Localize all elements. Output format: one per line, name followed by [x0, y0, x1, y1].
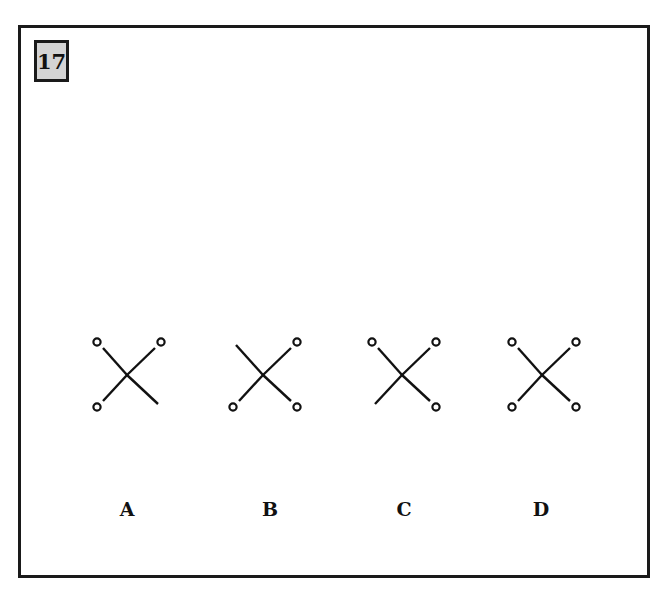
- arm-tl: [103, 348, 127, 375]
- x-cross-icon: [218, 330, 308, 420]
- question-number: 17: [37, 49, 66, 74]
- option-d-label[interactable]: D: [521, 498, 561, 520]
- question-frame: [18, 25, 650, 578]
- endpoint-circle-icon: [157, 338, 164, 345]
- endpoint-circle-icon: [508, 338, 515, 345]
- option-c-figure[interactable]: [357, 330, 447, 420]
- arm-br: [402, 375, 430, 401]
- arm-br: [542, 375, 570, 401]
- endpoint-circle-icon: [93, 338, 100, 345]
- x-cross-icon: [357, 330, 447, 420]
- arm-bl: [103, 375, 127, 401]
- endpoint-circle-icon: [368, 338, 375, 345]
- arm-bl: [239, 375, 263, 401]
- arm-tl: [518, 348, 542, 375]
- option-a-label[interactable]: A: [107, 498, 147, 520]
- option-b-figure[interactable]: [218, 330, 308, 420]
- arm-tr: [542, 348, 570, 375]
- endpoint-circle-icon: [432, 403, 439, 410]
- arm-tr: [127, 348, 155, 375]
- endpoint-circle-icon: [432, 338, 439, 345]
- endpoint-circle-icon: [508, 403, 515, 410]
- endpoint-circle-icon: [229, 403, 236, 410]
- option-c-label[interactable]: C: [384, 498, 424, 520]
- arm-br: [263, 375, 291, 401]
- option-b-label[interactable]: B: [250, 498, 290, 520]
- question-number-badge: 17: [34, 40, 69, 82]
- endpoint-circle-icon: [293, 338, 300, 345]
- endpoint-circle-icon: [293, 403, 300, 410]
- endpoint-circle-icon: [572, 338, 579, 345]
- x-cross-icon: [497, 330, 587, 420]
- option-a-figure[interactable]: [82, 330, 172, 420]
- endpoint-circle-icon: [93, 403, 100, 410]
- arm-tr: [402, 348, 430, 375]
- arm-bl: [518, 375, 542, 401]
- x-cross-icon: [82, 330, 172, 420]
- arm-bl: [375, 375, 402, 404]
- arm-tl: [378, 348, 402, 375]
- endpoint-circle-icon: [572, 403, 579, 410]
- arm-tl: [236, 345, 263, 375]
- arm-tr: [263, 348, 291, 375]
- arm-br: [127, 375, 158, 404]
- option-d-figure[interactable]: [497, 330, 587, 420]
